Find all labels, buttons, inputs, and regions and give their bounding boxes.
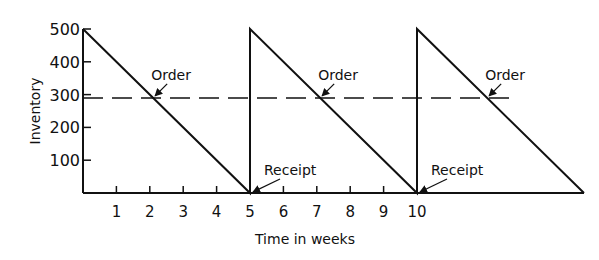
order-arrow <box>155 84 167 96</box>
inventory-sawtooth-chart: 10020030040050012345678910 OrderOrderOrd… <box>0 0 599 260</box>
x-tick-label: 3 <box>178 203 188 221</box>
x-tick-label: 8 <box>345 203 355 221</box>
receipt-label: Receipt <box>264 162 317 178</box>
order-arrow <box>489 84 501 96</box>
y-tick-label: 400 <box>49 53 80 72</box>
y-tick-label: 500 <box>49 20 80 39</box>
y-axis-title: Inventory <box>27 78 43 145</box>
axes: 10020030040050012345678910 <box>49 20 584 221</box>
series-layer <box>83 29 584 193</box>
annotations-layer: OrderOrderOrderReceiptReceipt <box>151 67 525 192</box>
x-tick-label: 6 <box>279 203 289 221</box>
inventory-line <box>83 29 584 193</box>
x-tick-label: 5 <box>245 203 255 221</box>
x-axis-title: Time in weeks <box>254 231 355 247</box>
x-tick-label: 7 <box>312 203 322 221</box>
x-tick-label: 1 <box>112 203 122 221</box>
order-label: Order <box>485 67 525 83</box>
receipt-label: Receipt <box>431 162 484 178</box>
order-label: Order <box>151 67 191 83</box>
y-tick-label: 200 <box>49 118 80 137</box>
x-tick-label: 2 <box>145 203 155 221</box>
receipt-arrow <box>420 179 447 192</box>
x-tick-label: 10 <box>407 203 426 221</box>
receipt-arrow <box>253 179 280 192</box>
y-tick-label: 100 <box>49 151 80 170</box>
y-tick-label: 300 <box>49 86 80 105</box>
x-tick-label: 9 <box>379 203 389 221</box>
x-tick-label: 4 <box>212 203 222 221</box>
order-arrow <box>322 84 334 96</box>
order-label: Order <box>318 67 358 83</box>
